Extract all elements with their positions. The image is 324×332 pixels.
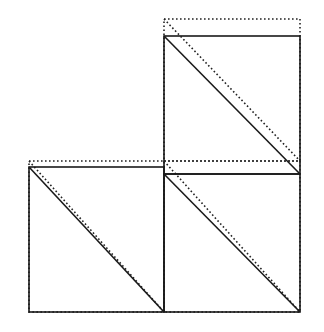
solid-diagonal (164, 174, 300, 312)
square-top-right (164, 19, 300, 174)
solid-diagonal (29, 167, 164, 312)
dotted-diagonal (164, 161, 300, 312)
solid-diagonal (164, 36, 300, 174)
square-bottom-left (29, 161, 164, 312)
squares-group (29, 19, 300, 312)
diagram-canvas (0, 0, 324, 332)
dotted-diagonal (164, 19, 300, 161)
square-bottom-right (164, 161, 300, 312)
